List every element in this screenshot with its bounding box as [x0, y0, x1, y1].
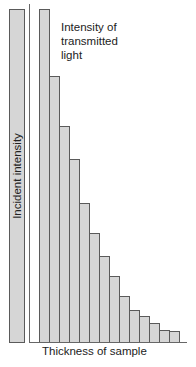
x-axis-line — [29, 342, 187, 343]
x-axis-label: Thickness of sample — [42, 345, 147, 357]
transmitted-light-label: Intensity of transmitted light — [61, 20, 161, 62]
incident-intensity-label: Incident intensity — [11, 133, 23, 219]
y-axis-line — [29, 4, 30, 343]
